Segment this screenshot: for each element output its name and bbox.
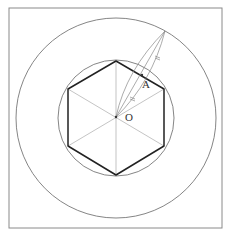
center-O-marker <box>115 116 117 118</box>
construction-lines <box>116 31 165 117</box>
point-A-marker <box>141 74 143 76</box>
label-A: A <box>142 78 150 90</box>
label-O: O <box>125 111 133 123</box>
hexagon-construction-diagram: A O <box>0 0 230 239</box>
